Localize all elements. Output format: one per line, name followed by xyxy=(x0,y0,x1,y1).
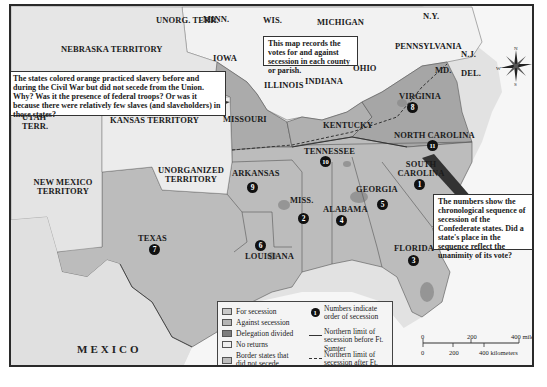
legend-fill-list: For secession Against secession Delegati… xyxy=(222,306,298,367)
label-miss: MISS. xyxy=(290,196,313,205)
scale-km-400: 400 kilometers xyxy=(479,349,518,356)
legend-symbol-list: 1 Numbers indicate order of secession No… xyxy=(306,305,394,367)
legend-item-no-returns: No returns xyxy=(222,339,298,350)
legend-item-limit-before: Northern limit of secession before Ft. S… xyxy=(306,328,394,351)
label-michigan: MICHIGAN xyxy=(317,18,364,27)
legend-swatch xyxy=(222,330,232,337)
legend-swatch xyxy=(222,341,232,348)
legend-label: Border states that did not secede xyxy=(236,352,298,367)
label-indiana: INDIANA xyxy=(305,77,343,86)
legend-label: Delegation divided xyxy=(236,329,293,338)
callout-votes: This map records the votes for and again… xyxy=(263,36,358,66)
label-illinois: ILLINOIS xyxy=(264,81,304,90)
scale-miles-200: 200 xyxy=(467,333,477,340)
label-wis: WIS. xyxy=(263,16,282,25)
map-frame: UNORG. TERR. MINN. WIS. MICHIGAN N.Y. NE… xyxy=(9,4,534,367)
legend-swatch xyxy=(222,308,232,315)
label-iowa: IOWA xyxy=(213,54,237,63)
dashed-line-icon xyxy=(309,358,322,359)
solid-line-icon xyxy=(309,335,322,336)
label-virginia: VIRGINIA xyxy=(399,92,441,101)
legend-item-limit-after: Northern limit of secession after Ft. Su… xyxy=(306,351,394,367)
svg-text:S: S xyxy=(514,82,517,86)
label-arkansas: ARKANSAS xyxy=(232,169,280,178)
legend-label: For secession xyxy=(236,307,277,316)
callout-numbers: The numbers show the chronological seque… xyxy=(433,194,534,250)
secession-order-5: 5 xyxy=(377,199,388,210)
label-missouri: MISSOURI xyxy=(223,115,267,124)
label-texas: TEXAS xyxy=(138,234,167,243)
label-mexico: MEXICO xyxy=(77,343,141,355)
label-unorganized: UNORGANIZED TERRITORY xyxy=(151,166,231,185)
label-georgia: GEORGIA xyxy=(356,185,398,194)
map-legend: For secession Against secession Delegati… xyxy=(217,301,393,367)
secession-order-3: 3 xyxy=(408,255,419,266)
svg-text:N: N xyxy=(514,46,518,51)
label-ny: N.Y. xyxy=(423,12,439,21)
secession-order-9: 9 xyxy=(247,182,258,193)
legend-item-delegation-divided: Delegation divided xyxy=(222,328,298,339)
scale-miles-400: 400 miles xyxy=(511,333,534,340)
legend-swatch xyxy=(222,357,232,364)
legend-item-against-secession: Against secession xyxy=(222,317,298,328)
secession-order-7: 7 xyxy=(149,244,160,255)
label-new-mexico: NEW MEXICO TERRITORY xyxy=(28,178,98,197)
svg-text:E: E xyxy=(532,63,534,68)
secession-order-2: 2 xyxy=(298,213,309,224)
label-nebraska: NEBRASKA TERRITORY xyxy=(61,45,163,54)
label-md: MD. xyxy=(435,66,452,75)
legend-item-border-states: Border states that did not secede xyxy=(222,350,298,367)
legend-item-order-numbers: 1 Numbers indicate order of secession xyxy=(306,305,394,328)
svg-text:W: W xyxy=(496,66,501,71)
label-pennsylvania: PENNSYLVANIA xyxy=(395,42,462,51)
compass-rose-icon: N S E W xyxy=(496,46,534,86)
legend-item-for-secession: For secession xyxy=(222,306,298,317)
label-florida: FLORIDA xyxy=(394,244,434,253)
label-south-carolina: SOUTH CAROLINA xyxy=(396,160,446,179)
scale-bar: 0 200 400 miles 0 200 400 kilometers xyxy=(421,333,521,361)
secession-order-4: 4 xyxy=(336,215,347,226)
legend-label: Numbers indicate order of secession xyxy=(324,305,394,322)
legend-swatch xyxy=(222,319,232,326)
scale-km-0: 0 xyxy=(421,349,424,356)
label-nj: N.J. xyxy=(461,50,476,59)
scale-miles-0: 0 xyxy=(421,333,424,340)
legend-label: No returns xyxy=(236,340,268,349)
secession-order-8: 8 xyxy=(407,102,418,113)
label-louisiana: LOUISIANA xyxy=(245,252,294,261)
label-kansas: KANSAS TERRITORY xyxy=(110,116,199,125)
label-north-carolina: NORTH CAROLINA xyxy=(394,131,475,140)
label-tennessee: TENNESSEE xyxy=(304,147,355,156)
callout-border-states: The states colored orange practiced slav… xyxy=(9,71,226,116)
legend-label: Against secession xyxy=(236,318,290,327)
order-number-icon: 1 xyxy=(311,308,320,317)
scale-km-200: 200 xyxy=(449,349,459,356)
secession-order-6: 6 xyxy=(255,240,266,251)
label-del: DEL. xyxy=(461,69,481,78)
secession-order-11: 11 xyxy=(427,140,438,151)
label-alabama: ALABAMA xyxy=(323,205,368,214)
label-minn: MINN. xyxy=(203,15,229,24)
legend-label: Northern limit of secession after Ft. Su… xyxy=(324,351,394,367)
secession-order-1: 1 xyxy=(414,179,425,190)
secession-order-10: 10 xyxy=(320,156,331,167)
label-kentucky: KENTUCKY xyxy=(323,121,373,130)
